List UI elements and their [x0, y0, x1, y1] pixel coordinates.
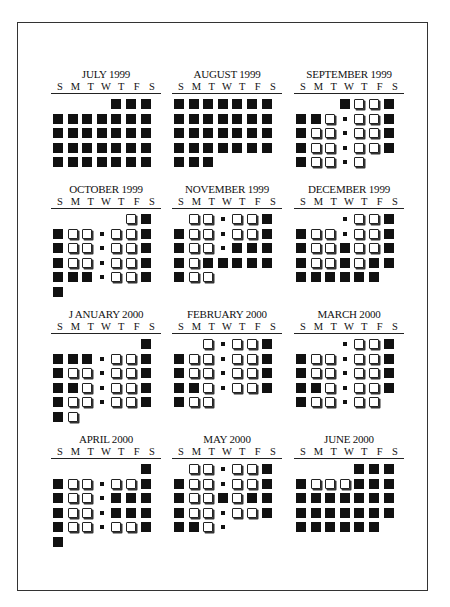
open-square-icon: [82, 479, 92, 489]
weekday-label: S: [296, 196, 310, 208]
empty-cell: [96, 338, 111, 353]
day-cell: [67, 478, 82, 493]
day-cell: [231, 507, 246, 522]
open-square-icon: [247, 229, 257, 239]
day-cell: [353, 353, 368, 368]
day-cell: [173, 98, 188, 113]
day-cell: [52, 257, 67, 272]
empty-cell: [125, 463, 140, 478]
day-cell: [231, 478, 246, 493]
weekday-label: W: [342, 81, 356, 93]
open-square-icon: [369, 339, 379, 349]
empty-cell: [52, 338, 67, 353]
empty-cell: [52, 98, 67, 113]
day-cell: [96, 507, 111, 522]
open-square-icon: [203, 464, 213, 474]
filled-square-icon: [262, 243, 272, 253]
filled-square-icon: [262, 339, 272, 349]
day-cell: [231, 382, 246, 397]
weekday-label: M: [189, 196, 203, 208]
empty-cell: [67, 213, 82, 228]
small-dot-icon: [343, 117, 347, 121]
day-cell: [383, 353, 398, 368]
day-cell: [125, 142, 140, 157]
empty-cell: [324, 338, 339, 353]
empty-cell: [324, 213, 339, 228]
open-square-icon: [354, 368, 364, 378]
day-cell: [310, 156, 325, 171]
weekday-label: M: [68, 321, 82, 333]
day-cell: [67, 353, 82, 368]
day-cell: [188, 367, 203, 382]
filled-square-icon: [68, 354, 78, 364]
open-square-icon: [232, 214, 242, 224]
small-dot-icon: [221, 357, 225, 361]
empty-cell: [67, 98, 82, 113]
filled-square-icon: [174, 493, 184, 503]
open-square-icon: [369, 397, 379, 407]
day-cell: [231, 257, 246, 272]
day-cell: [324, 156, 339, 171]
day-cell: [125, 213, 140, 228]
weekday-label: W: [99, 81, 113, 93]
weekday-label: T: [84, 196, 98, 208]
filled-square-icon: [111, 508, 121, 518]
day-cell: [383, 463, 398, 478]
day-cell: [140, 242, 155, 257]
month-calendar: JUNE 2000SMTWTFS: [294, 433, 404, 536]
day-cell: [81, 492, 96, 507]
day-cell: [52, 536, 67, 551]
open-square-icon: [247, 339, 257, 349]
day-cell: [52, 127, 67, 142]
day-cell: [202, 127, 217, 142]
filled-square-icon: [384, 368, 394, 378]
open-square-icon: [126, 368, 136, 378]
open-square-icon: [126, 214, 136, 224]
day-cell: [96, 492, 111, 507]
day-cell: [67, 257, 82, 272]
filled-square-icon: [262, 214, 272, 224]
day-cell: [188, 271, 203, 286]
day-cell: [246, 257, 261, 272]
filled-square-icon: [53, 143, 63, 153]
weekday-label: F: [130, 446, 144, 458]
filled-square-icon: [325, 508, 335, 518]
filled-square-icon: [111, 157, 121, 167]
open-square-icon: [325, 383, 335, 393]
day-cell: [217, 242, 232, 257]
day-grid: [172, 98, 282, 171]
filled-square-icon: [203, 128, 213, 138]
weekday-header: SMTWTFS: [294, 81, 404, 94]
empty-cell: [52, 463, 67, 478]
day-cell: [125, 156, 140, 171]
open-square-icon: [111, 368, 121, 378]
filled-square-icon: [174, 508, 184, 518]
day-cell: [246, 507, 261, 522]
filled-square-icon: [311, 508, 321, 518]
weekday-label: T: [114, 321, 128, 333]
day-cell: [173, 507, 188, 522]
filled-square-icon: [189, 143, 199, 153]
month-title: FEBRUARY 2000: [172, 308, 282, 320]
month-calendar: FEBRUARY 2000SMTWTFS: [172, 308, 282, 411]
open-square-icon: [369, 214, 379, 224]
open-square-icon: [126, 354, 136, 364]
day-cell: [295, 142, 310, 157]
day-cell: [217, 113, 232, 128]
filled-square-icon: [141, 114, 151, 124]
empty-cell: [295, 213, 310, 228]
open-square-icon: [325, 479, 335, 489]
day-cell: [383, 113, 398, 128]
day-cell: [188, 396, 203, 411]
open-square-icon: [203, 272, 213, 282]
filled-square-icon: [126, 508, 136, 518]
filled-square-icon: [262, 354, 272, 364]
filled-square-icon: [262, 258, 272, 268]
filled-square-icon: [141, 243, 151, 253]
open-square-icon: [354, 128, 364, 138]
filled-square-icon: [384, 354, 394, 364]
day-cell: [383, 338, 398, 353]
filled-square-icon: [53, 383, 63, 393]
filled-square-icon: [262, 99, 272, 109]
filled-square-icon: [311, 272, 321, 282]
